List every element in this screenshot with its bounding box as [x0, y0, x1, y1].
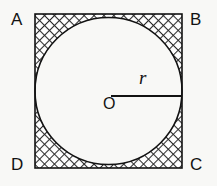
vertex-label-b: B: [190, 11, 201, 28]
geometry-figure: A B C D O r: [0, 0, 217, 186]
center-point-label-o: O: [103, 96, 115, 112]
vertex-label-a: A: [11, 11, 22, 28]
figure-canvas: [0, 0, 217, 186]
shaded-corner-regions: [33, 12, 184, 170]
radius-label-r: r: [139, 68, 146, 87]
vertex-label-d: D: [11, 156, 23, 173]
vertex-label-c: C: [190, 156, 202, 173]
